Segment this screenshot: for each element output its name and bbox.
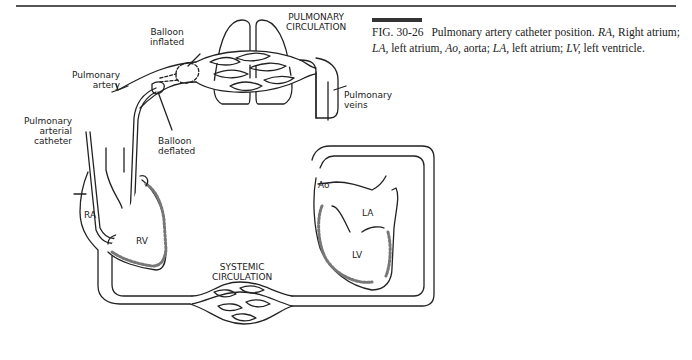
label-lv: LV [352,250,362,260]
balloon-deflated-leader [158,92,172,130]
systemic-capillary-bed [190,282,292,324]
label-rv: RV [136,236,148,246]
label-pulmonary-arterial-catheter: Pulmonary arterial catheter [8,116,72,146]
label-ao: Ao [318,180,330,190]
label-balloon-deflated: Balloon deflated [158,136,195,156]
label-pulmonary-circulation: PULMONARY CIRCULATION [286,12,346,32]
balloon-inflated-leader [188,54,200,66]
label-la: LA [362,208,373,218]
label-ra: RA [84,210,96,220]
label-pulmonary-artery: Pulmonary artery [68,70,120,90]
mitral-valve-anterior [332,206,350,232]
label-balloon-inflated: Balloon inflated [150,27,184,47]
mitral-valve-posterior [362,227,384,232]
label-pulmonary-veins: Pulmonary veins [344,90,392,110]
left-heart [314,176,398,290]
pulmonary-artery-vessel [112,62,196,108]
balloon-inflated [160,63,199,83]
label-systemic-circulation: SYSTEMIC CIRCULATION [212,262,272,282]
pulmonary-catheter-diagram [0,0,692,360]
